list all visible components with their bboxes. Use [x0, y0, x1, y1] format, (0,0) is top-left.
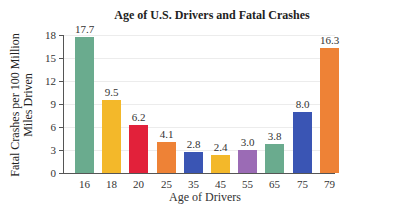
gridline — [64, 35, 335, 36]
x-tick-label: 20 — [124, 178, 154, 190]
bar-value-label: 2.8 — [179, 139, 209, 150]
y-tick-label: 3 — [30, 145, 56, 156]
x-tick-label: 55 — [233, 178, 263, 190]
y-tick-label: 18 — [30, 30, 56, 41]
bar-value-label: 3.8 — [260, 131, 290, 142]
x-tick-label: 35 — [179, 178, 209, 190]
bar-value-label: 9.5 — [97, 87, 127, 98]
gridline — [64, 58, 335, 59]
x-tick-label: 65 — [260, 178, 290, 190]
bar-age-25 — [157, 142, 176, 173]
y-tick-label: 0 — [30, 168, 56, 179]
x-tick-label: 18 — [97, 178, 127, 190]
x-axis-line — [63, 173, 335, 174]
y-tick — [59, 81, 63, 82]
bar-age-79 — [320, 48, 339, 173]
x-tick-label: 75 — [288, 178, 318, 190]
bar-value-label: 4.1 — [152, 129, 182, 140]
y-tick — [59, 35, 63, 36]
x-tick-label: 16 — [70, 178, 100, 190]
bar-age-16 — [75, 37, 94, 173]
y-tick-label: 9 — [30, 99, 56, 110]
x-axis-label: Age of Drivers — [130, 190, 280, 205]
gridline — [64, 81, 335, 82]
bar-value-label: 3.0 — [233, 137, 263, 148]
y-tick — [59, 127, 63, 128]
bar-value-label: 6.2 — [124, 112, 154, 123]
bar-value-label: 2.4 — [206, 142, 236, 153]
bar-value-label: 16.3 — [315, 35, 345, 46]
chart-title: Age of U.S. Drivers and Fatal Crashes — [0, 8, 394, 23]
bar-age-75 — [293, 112, 312, 173]
x-tick-label: 79 — [315, 178, 345, 190]
bar-age-35 — [184, 152, 203, 173]
bar-age-45 — [211, 155, 230, 173]
y-tick — [59, 150, 63, 151]
y-tick — [59, 173, 63, 174]
y-tick-label: 6 — [30, 122, 56, 133]
bar-value-label: 8.0 — [288, 99, 318, 110]
bar-value-label: 17.7 — [70, 24, 100, 35]
y-tick — [59, 58, 63, 59]
y-tick-label: 15 — [30, 53, 56, 64]
bar-age-18 — [102, 100, 121, 173]
x-tick-label: 25 — [152, 178, 182, 190]
bar-age-65 — [265, 144, 284, 173]
x-tick-label: 45 — [206, 178, 236, 190]
y-tick — [59, 104, 63, 105]
bar-age-20 — [129, 125, 148, 173]
y-tick-label: 12 — [30, 76, 56, 87]
bar-age-55 — [238, 150, 257, 173]
